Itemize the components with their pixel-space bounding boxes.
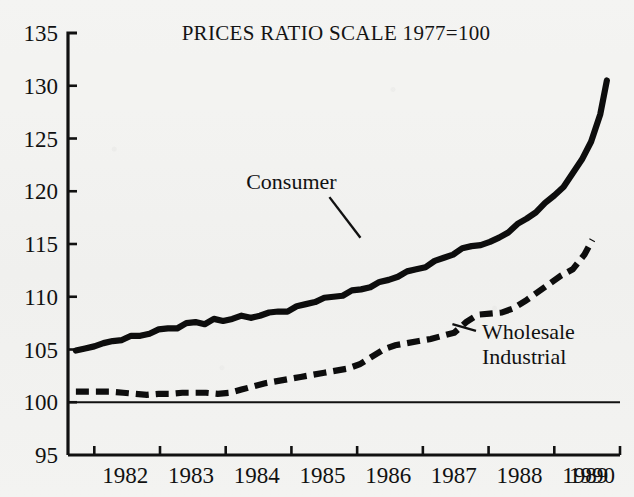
y-tick-label-130: 130 <box>24 74 59 99</box>
industrial-series-label: Industrial <box>482 344 566 369</box>
chart-title: PRICES RATIO SCALE 1977=100 <box>182 21 491 45</box>
price-index-line-chart: PRICES RATIO SCALE 1977=100 951001051101… <box>0 0 634 497</box>
y-tick-label-135: 135 <box>24 21 59 46</box>
x-tick-label-1983: 1983 <box>168 463 214 488</box>
x-tick-label-1985: 1985 <box>299 463 345 488</box>
x-tick-label-1982: 1982 <box>102 463 148 488</box>
y-axis-tick-labels: 95100105110115120125130135 <box>24 21 59 468</box>
x-tick-label-1987: 1987 <box>431 463 477 488</box>
y-tick-label-100: 100 <box>24 390 59 415</box>
y-tick-label-125: 125 <box>24 127 59 152</box>
chart-container: PRICES RATIO SCALE 1977=100 951001051101… <box>0 0 634 497</box>
consumer-leader-line <box>329 197 360 238</box>
x-tick-label-1986: 1986 <box>365 463 411 488</box>
axes-group <box>68 33 620 455</box>
y-tick-label-95: 95 <box>35 443 58 468</box>
y-tick-label-115: 115 <box>24 232 58 257</box>
x-tick-label-1984: 1984 <box>234 463 281 488</box>
y-tick-label-105: 105 <box>24 338 59 363</box>
consumer-series-label: Consumer <box>246 169 337 194</box>
x-axis-tick-labels: 198219831984198519861987198819891990 <box>102 463 615 488</box>
y-tick-label-110: 110 <box>24 285 58 310</box>
y-tick-label-120: 120 <box>24 179 59 204</box>
series-line-consumer <box>76 80 607 350</box>
series-line-wholesale-industrial <box>76 240 593 395</box>
x-tick-label-1988: 1988 <box>497 463 543 488</box>
x-tick-label-1990: 1990 <box>569 463 615 488</box>
wholesale-series-label: Wholesale <box>482 319 575 344</box>
